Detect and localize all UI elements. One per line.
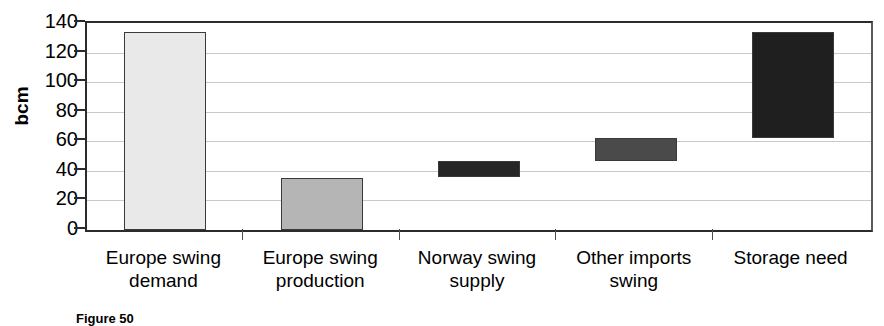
category-label: Norway swing supply [399, 246, 556, 292]
y-tick-label: 80 [32, 100, 78, 120]
category-tick [712, 229, 713, 240]
plot-area [85, 21, 873, 232]
category-label: Europe swing production [242, 246, 399, 292]
y-tick-mark [74, 138, 85, 140]
y-tick-mark [74, 109, 85, 111]
y-tick-label: 0 [32, 218, 78, 238]
category-label: Other imports swing [555, 246, 712, 292]
category-label: Europe swing demand [85, 246, 242, 292]
category-tick [242, 229, 243, 240]
bar [124, 32, 206, 230]
bar [281, 178, 363, 230]
y-tick-label: 120 [32, 41, 78, 61]
bar [438, 161, 520, 177]
y-tick-mark [74, 79, 85, 81]
y-tick-mark [74, 20, 85, 22]
y-axis-title: bcm [11, 86, 33, 126]
y-tick-mark [74, 197, 85, 199]
y-tick-label: 140 [32, 11, 78, 31]
y-tick-label: 100 [32, 70, 78, 90]
category-tick [399, 229, 400, 240]
bar [595, 138, 677, 160]
y-tick-label: 20 [32, 188, 78, 208]
category-label: Storage need [712, 246, 869, 269]
y-tick-label: 60 [32, 129, 78, 149]
bar [752, 32, 834, 138]
y-tick-label: 40 [32, 159, 78, 179]
y-tick-mark [74, 227, 85, 229]
figure-caption: Figure 50 [76, 311, 134, 326]
y-tick-mark [74, 50, 85, 52]
category-tick [555, 229, 556, 240]
y-tick-mark [74, 168, 85, 170]
